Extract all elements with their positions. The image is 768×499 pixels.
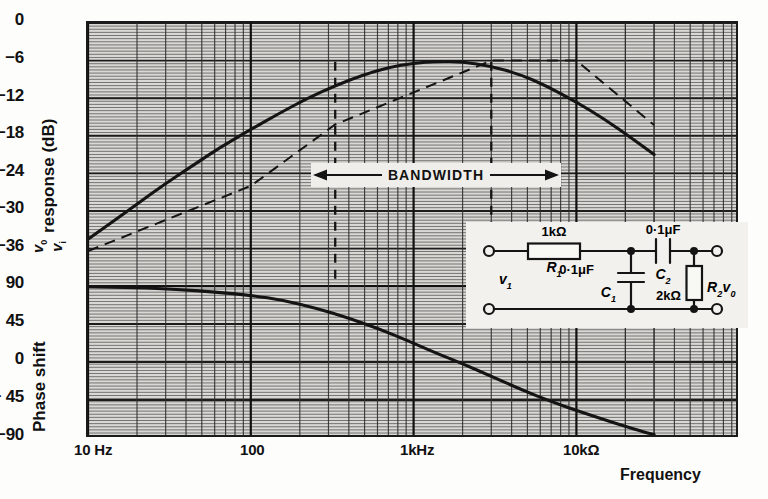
bandwidth-label: BANDWIDTH [382,167,490,183]
gain-axis-title-text: response (dB) [39,119,58,238]
gain-ratio-numerator: v0 [29,240,46,253]
frequency-axis-title: Frequency [620,466,701,484]
phase-axis-title: Phase shift [30,341,50,432]
gain-ratio-fraction: v0 vi [30,240,68,253]
vin-label: v1 [499,271,512,291]
gain-ratio-denominator: vi [48,241,65,252]
freq-tick-10khz: 10kΩ [563,441,599,458]
c1-value-label: 0·1μF [559,262,594,277]
output-terminal-bottom [712,304,722,314]
vout-label: v0 [723,279,736,299]
bandwidth-annotation: BANDWIDTH [311,163,561,187]
input-terminal-bottom [484,304,494,314]
freq-tick-10hz: 10 Hz [74,441,112,458]
gain-axis-title: v0 vi response (dB) [30,119,68,253]
r2-value-label: 2kΩ [656,288,681,303]
freq-tick-100: 100 [240,441,264,458]
r2-name-label: R2 [707,279,722,299]
r1-value-label: 1kΩ [542,224,567,239]
input-terminal-top [484,246,494,256]
c1-name-label: C1 [601,284,616,304]
circuit-inset: 1kΩ R1 0·1μF C1 0·1μF C2 2kΩ R2 v1 v0 [466,222,748,328]
output-terminal-top [712,246,722,256]
figure-root: 0 −6 −12 −18 −24 −30 −36 90 45 0 − 45 −9… [0,0,768,499]
freq-tick-1khz: 1kHz [400,441,434,458]
c2-value-label: 0·1μF [646,222,681,237]
circuit-schematic: 1kΩ R1 0·1μF C1 0·1μF C2 2kΩ R2 v1 v0 [466,222,748,328]
c2-name-label: C2 [655,266,670,286]
